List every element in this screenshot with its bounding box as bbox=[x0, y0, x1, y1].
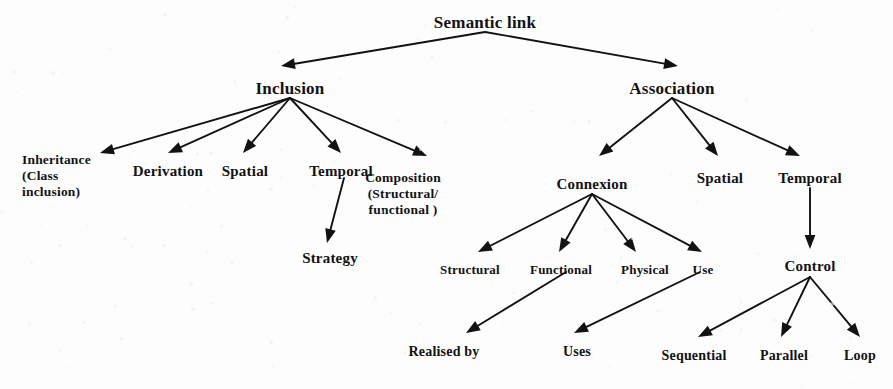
arrowhead-icon bbox=[574, 322, 589, 333]
node-spatial-inclusion: Spatial bbox=[222, 163, 268, 181]
node-temporal-inclusion: Temporal bbox=[309, 163, 373, 181]
arrowhead-icon bbox=[785, 145, 800, 156]
edge-line bbox=[608, 98, 672, 149]
arrowhead-icon bbox=[478, 241, 493, 252]
arrowhead-icon bbox=[781, 322, 792, 337]
arrowhead-icon bbox=[168, 142, 183, 153]
arrowhead-icon bbox=[663, 58, 678, 69]
node-composition: Composition (Structural/ functional ) bbox=[365, 170, 441, 218]
edge-line bbox=[810, 277, 853, 329]
node-association: Association bbox=[629, 79, 714, 99]
arrowhead-icon bbox=[412, 146, 427, 156]
node-derivation: Derivation bbox=[133, 163, 203, 181]
node-root: Semantic link bbox=[434, 13, 536, 33]
node-inheritance: Inheritance (Class inclusion) bbox=[22, 152, 91, 200]
edge-line bbox=[475, 272, 566, 327]
edge-line bbox=[672, 98, 790, 151]
edge-line bbox=[672, 98, 711, 147]
node-realised-by: Realised by bbox=[408, 344, 479, 361]
arrowhead-icon bbox=[466, 321, 481, 333]
node-parallel: Parallel bbox=[760, 348, 808, 365]
node-use: Use bbox=[693, 262, 714, 277]
edge-layer bbox=[0, 0, 893, 389]
node-physical: Physical bbox=[621, 262, 669, 277]
edge-line bbox=[330, 178, 344, 232]
arrowhead-icon bbox=[698, 326, 713, 337]
node-connexion: Connexion bbox=[557, 176, 628, 194]
node-temporal-association: Temporal bbox=[778, 170, 842, 188]
edge-line bbox=[592, 194, 629, 243]
edge-line bbox=[584, 272, 700, 328]
arrowhead-icon bbox=[281, 58, 296, 69]
node-inclusion: Inclusion bbox=[256, 79, 325, 99]
arrowhead-icon bbox=[623, 238, 636, 252]
arrowhead-icon bbox=[705, 142, 718, 156]
node-sequential: Sequential bbox=[661, 348, 726, 365]
edge-line bbox=[592, 194, 692, 247]
node-loop: Loop bbox=[844, 348, 876, 365]
node-functional: Functional bbox=[530, 262, 592, 277]
arrowhead-icon bbox=[325, 228, 335, 243]
node-control: Control bbox=[784, 258, 835, 276]
edge-line bbox=[292, 32, 485, 64]
diagram-canvas: Semantic link Inclusion Association Inhe… bbox=[0, 0, 893, 389]
node-structural: Structural bbox=[440, 262, 500, 277]
arrowhead-icon bbox=[599, 143, 613, 156]
arrowhead-icon bbox=[687, 241, 702, 252]
edge-line bbox=[111, 98, 290, 150]
edge-line bbox=[708, 277, 810, 332]
edge-line bbox=[485, 32, 667, 64]
node-strategy: Strategy bbox=[302, 250, 358, 268]
edge-line bbox=[178, 98, 290, 148]
arrowhead-icon bbox=[559, 237, 571, 252]
arrowhead-icon bbox=[805, 235, 816, 249]
edge-line bbox=[290, 98, 334, 145]
node-spatial-association: Spatial bbox=[697, 170, 743, 188]
node-uses: Uses bbox=[563, 344, 591, 361]
edge-line bbox=[290, 98, 417, 152]
edge-line bbox=[250, 98, 290, 145]
arrowhead-icon bbox=[100, 144, 115, 154]
